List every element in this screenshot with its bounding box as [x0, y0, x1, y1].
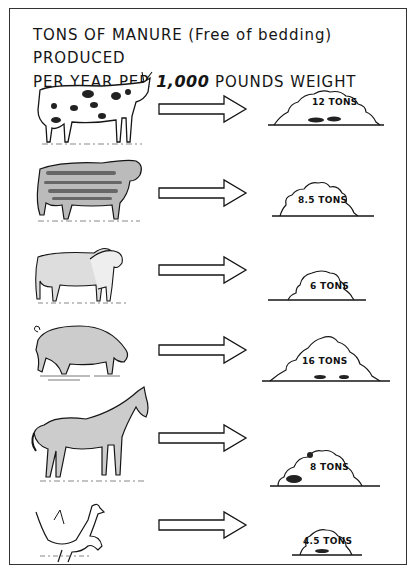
arrow-icon	[158, 179, 248, 207]
tons-label: 16 TONS	[302, 356, 348, 366]
row-pig: 16 TONS	[0, 322, 412, 382]
manure-pile-chicken: 4.5 TONS	[290, 526, 370, 556]
tons-label: 6 TONS	[310, 281, 349, 291]
tons-label: 12 TONS	[312, 97, 358, 107]
arrow-icon	[158, 424, 248, 452]
arrow-icon	[158, 256, 248, 284]
chicken-icon	[32, 500, 112, 566]
row-sheep: 6 TONS	[0, 245, 412, 305]
manure-pile-pig: 16 TONS	[262, 332, 392, 382]
row-horse: 8 TONS	[0, 385, 412, 485]
manure-pile-cow: 12 TONS	[268, 86, 388, 126]
arrow-icon	[158, 95, 248, 123]
tons-label: 8 TONS	[310, 462, 349, 472]
manure-pile-horse: 8 TONS	[264, 447, 384, 487]
sheep-icon	[34, 245, 130, 305]
row-cow: 12 TONS	[0, 70, 412, 150]
cow-icon	[32, 70, 152, 150]
tons-label: 4.5 TONS	[303, 536, 352, 546]
manure-pile-steer: 8.5 TONS	[270, 179, 380, 217]
title-line-1: TONS OF MANURE (Free of bedding) PRODUCE…	[33, 24, 403, 70]
arrow-icon	[158, 336, 248, 364]
arrow-icon	[158, 511, 248, 539]
tons-label: 8.5 TONS	[298, 195, 347, 205]
row-steer: 8.5 TONS	[0, 155, 412, 227]
steer-icon	[32, 155, 144, 227]
manure-pile-sheep: 6 TONS	[266, 265, 376, 301]
row-chicken: 4.5 TONS	[0, 500, 412, 566]
pig-icon	[30, 322, 130, 382]
horse-icon	[26, 385, 154, 485]
